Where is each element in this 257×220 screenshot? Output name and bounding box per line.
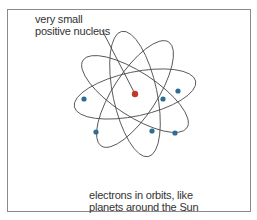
caption-line-2: planets around the Sun [89,201,198,213]
nucleus [132,91,138,97]
electron [160,96,165,101]
atom-diagram [0,0,257,220]
caption-line-1: electrons in orbits, like [89,189,198,201]
electron [81,96,86,101]
electron [175,88,180,93]
electron [93,129,98,134]
leader-line [102,30,134,92]
electron [149,128,154,133]
caption: electrons in orbits, like planets around… [89,189,198,213]
electron [172,130,177,135]
